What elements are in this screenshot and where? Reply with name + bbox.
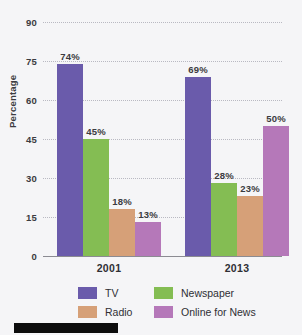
bar: 69% — [185, 77, 211, 256]
legend-label: Newspaper — [181, 287, 234, 299]
bar-value-label: 18% — [112, 196, 132, 207]
bar-value-label: 50% — [266, 113, 286, 124]
legend-label: Radio — [105, 306, 132, 318]
y-axis-tick-label: 75 — [26, 56, 37, 67]
y-axis-tick-label: 30 — [26, 173, 37, 184]
y-axis-label: Percentage — [7, 75, 18, 128]
legend-color-swatch — [78, 306, 97, 318]
x-axis-category-label: 2001 — [97, 262, 122, 274]
y-axis-tick-label: 90 — [26, 17, 37, 28]
legend-label: Online for News — [181, 306, 256, 318]
bar-value-label: 13% — [138, 209, 158, 220]
legend-color-swatch — [154, 287, 173, 299]
legend-row: TVNewspaper — [78, 285, 278, 300]
chart-legend: TVNewspaperRadioOnline for News — [78, 285, 278, 323]
bar-value-label: 74% — [60, 51, 80, 62]
legend-item[interactable]: Radio — [78, 306, 154, 318]
bar: 13% — [135, 222, 161, 256]
bar: 50% — [263, 126, 289, 256]
bar: 18% — [109, 209, 135, 256]
y-axis-tick-label: 45 — [26, 134, 37, 145]
y-axis-tick-label: 0 — [32, 251, 37, 262]
bar-chart-figure: Percentage 0153045607590 74%45%18%13%69%… — [0, 0, 302, 335]
legend-item[interactable]: Online for News — [154, 306, 256, 318]
legend-color-swatch — [78, 287, 97, 299]
y-axis-tick-label: 60 — [26, 95, 37, 106]
bar: 23% — [237, 196, 263, 256]
gridline — [43, 22, 282, 23]
bar-value-label: 69% — [188, 64, 208, 75]
y-axis-tick-label: 15 — [26, 212, 37, 223]
bar: 74% — [57, 64, 83, 256]
legend-item[interactable]: TV — [78, 287, 154, 299]
x-axis-line — [43, 256, 282, 257]
caption-bar — [14, 323, 118, 333]
bar: 28% — [211, 183, 237, 256]
bar-value-label: 45% — [86, 126, 106, 137]
x-axis-category-label: 2013 — [225, 262, 250, 274]
legend-label: TV — [105, 287, 118, 299]
bar-value-label: 28% — [214, 170, 234, 181]
plot-area: 0153045607590 74%45%18%13%69%28%23%50% 2… — [43, 22, 282, 256]
legend-item[interactable]: Newspaper — [154, 287, 234, 299]
bar: 45% — [83, 139, 109, 256]
legend-color-swatch — [154, 306, 173, 318]
bar-value-label: 23% — [240, 183, 260, 194]
legend-row: RadioOnline for News — [78, 304, 278, 319]
